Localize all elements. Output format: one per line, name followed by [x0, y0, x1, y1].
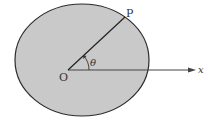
label-p: P: [126, 7, 134, 20]
x-axis-arrow-icon: [188, 68, 196, 73]
label-x: x: [198, 64, 204, 75]
polar-diagram: P O θ x: [0, 0, 215, 119]
label-theta: θ: [90, 57, 96, 68]
shaded-ellipse: [15, 4, 149, 116]
label-o: O: [59, 71, 68, 84]
